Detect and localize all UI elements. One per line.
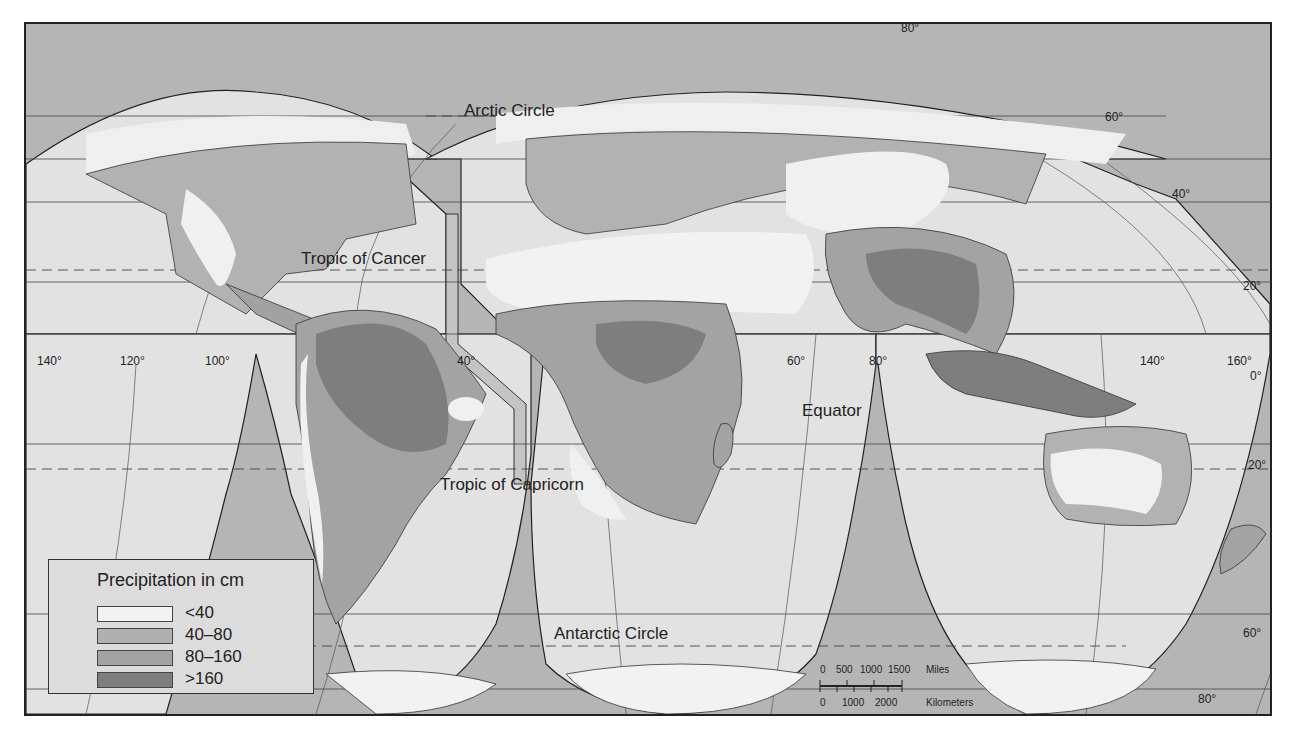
zone-antarctica-af — [566, 664, 806, 714]
lat-80n-label: 80° — [901, 22, 919, 35]
lat-0-label: 0° — [1250, 369, 1261, 383]
legend-item-40-80: 40–80 — [97, 627, 297, 647]
tropic-of-cancer-label: Tropic of Cancer — [301, 249, 426, 269]
lon-120w-label: 120° — [120, 354, 145, 368]
scale-mi-1500: 1500 — [888, 664, 910, 675]
scale-mi-1000: 1000 — [860, 664, 882, 675]
scale-bar: 0 500 1000 1500 Miles 0 1000 2000 Kilome… — [816, 664, 1036, 716]
lon-100w-label: 100° — [205, 354, 230, 368]
legend-label-lt40: <40 — [185, 603, 214, 623]
zone-antarctica-sa — [326, 671, 496, 714]
antarctic-circle-label: Antarctic Circle — [554, 624, 668, 644]
scale-mi-0: 0 — [820, 664, 826, 675]
scale-mi-unit: Miles — [926, 664, 949, 675]
scale-km-unit: Kilometers — [926, 697, 973, 708]
lon-140e-label: 140° — [1140, 354, 1165, 368]
legend-label-80-160: 80–160 — [185, 647, 242, 667]
legend-swatch-gt160 — [97, 672, 173, 688]
legend-swatch-40-80 — [97, 628, 173, 644]
scale-mi-500: 500 — [836, 664, 853, 675]
lat-60s-label: 60° — [1243, 626, 1261, 640]
lat-80s-label: 80° — [1198, 692, 1216, 706]
lat-40n-label: 40° — [1172, 187, 1190, 201]
scale-bar-ruler — [816, 678, 916, 694]
zone-ne-brazil-dry — [448, 397, 484, 421]
lat-20s-label: 20° — [1248, 458, 1266, 472]
legend-swatch-lt40 — [97, 606, 173, 622]
legend: Precipitation in cm <40 40–80 80–160 >16… — [48, 559, 314, 694]
arctic-circle-label: Arctic Circle — [464, 101, 555, 121]
zone-new-zealand — [1220, 525, 1266, 574]
lat-20n-label: 20° — [1243, 279, 1261, 293]
lon-80e-label: 80° — [869, 354, 887, 368]
legend-title: Precipitation in cm — [97, 570, 244, 591]
scale-km-0: 0 — [820, 697, 826, 708]
scale-km-2000: 2000 — [875, 697, 897, 708]
equator-label: Equator — [802, 401, 862, 421]
lon-160e-label: 160° — [1227, 354, 1252, 368]
lon-140w-label: 140° — [37, 354, 62, 368]
lon-60e-label: 60° — [787, 354, 805, 368]
scale-km-1000: 1000 — [842, 697, 864, 708]
legend-swatch-80-160 — [97, 650, 173, 666]
lon-40w-label: 40° — [457, 354, 475, 368]
tropic-of-capricorn-label: Tropic of Capricorn — [440, 475, 584, 495]
legend-label-40-80: 40–80 — [185, 625, 232, 645]
legend-item-lt40: <40 — [97, 605, 297, 625]
legend-item-gt160: >160 — [97, 671, 297, 691]
legend-item-80-160: 80–160 — [97, 649, 297, 669]
legend-label-gt160: >160 — [185, 669, 223, 689]
lat-60n-label: 60° — [1105, 110, 1123, 124]
